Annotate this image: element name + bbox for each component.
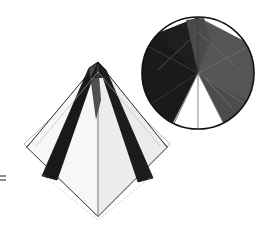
geometric-figure bbox=[0, 0, 272, 236]
figure-canvas bbox=[0, 0, 272, 236]
